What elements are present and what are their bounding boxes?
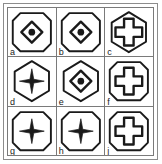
figure-shape-j (105, 107, 153, 155)
figure-shape-d (8, 57, 56, 105)
figure-shape-h (57, 107, 105, 155)
figure-shape-f (105, 57, 153, 105)
cell-label-g: g (10, 146, 15, 156)
cell-label-j: j (107, 146, 109, 156)
figure-shape-c (105, 8, 153, 56)
figure-cell-d[interactable]: d (8, 57, 57, 106)
cell-label-a: a (10, 47, 15, 57)
cell-label-d: d (10, 97, 15, 107)
figure-cell-a[interactable]: a (8, 8, 57, 57)
figure-shape-e (57, 57, 105, 105)
figure-grid-root: abcdefghj (0, 0, 162, 164)
cell-label-h: h (59, 146, 64, 156)
cell-label-c: c (107, 47, 112, 57)
cell-label-f: f (107, 97, 110, 107)
figure-cell-j[interactable]: j (105, 107, 154, 156)
cell-label-b: b (59, 47, 64, 57)
figure-cell-c[interactable]: c (105, 8, 154, 57)
figure-cell-b[interactable]: b (57, 8, 106, 57)
figure-shape-a (8, 8, 56, 56)
cell-label-e: e (59, 97, 64, 107)
figure-cell-e[interactable]: e (57, 57, 106, 106)
figure-cell-h[interactable]: h (57, 107, 106, 156)
figure-cell-g[interactable]: g (8, 107, 57, 156)
figure-shape-g (8, 107, 56, 155)
figure-cell-f[interactable]: f (105, 57, 154, 106)
nine-cell-grid: abcdefghj (7, 7, 154, 156)
figure-shape-b (57, 8, 105, 56)
